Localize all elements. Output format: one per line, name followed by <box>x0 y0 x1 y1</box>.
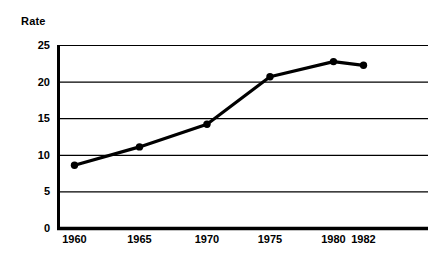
x-tick-label-1965: 1965 <box>118 234 162 245</box>
x-tick-label-1982: 1982 <box>342 234 386 245</box>
data-point-1965 <box>136 143 143 150</box>
chart-figure: Rate 25 20 15 10 5 0 1960 1965 1970 1975… <box>0 0 442 258</box>
x-tick-label-1975: 1975 <box>248 234 292 245</box>
y-tick-label-15: 15 <box>22 113 50 124</box>
y-tick-label-25: 25 <box>22 40 50 51</box>
y-tick-label-10: 10 <box>22 150 50 161</box>
line-chart-plot <box>0 0 442 258</box>
gridlines <box>58 46 428 192</box>
data-point-1980 <box>330 58 337 65</box>
data-point-1975 <box>266 73 273 80</box>
y-tick-label-5: 5 <box>22 186 50 197</box>
data-line <box>75 62 364 166</box>
x-tick-label-1970: 1970 <box>185 234 229 245</box>
y-tick-label-0: 0 <box>22 223 50 234</box>
data-point-1960 <box>71 162 78 169</box>
data-point-1970 <box>203 121 210 128</box>
y-tick-label-20: 20 <box>22 77 50 88</box>
x-tick-label-1960: 1960 <box>53 234 97 245</box>
data-point-1982 <box>360 62 367 69</box>
